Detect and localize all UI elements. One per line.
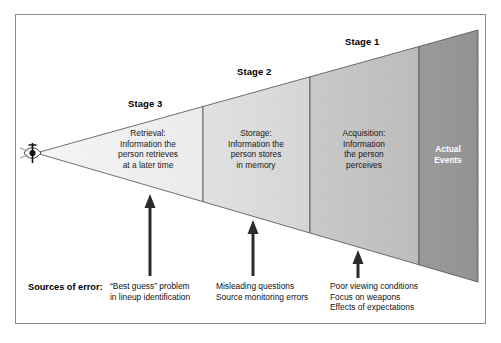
sources-of-error-stage-1: Poor viewing conditions Focus on weapons…: [330, 281, 448, 313]
stage-label-stage-3: Stage 3: [128, 98, 163, 109]
arrow-stage-2: [248, 220, 259, 276]
eye-icon: [20, 143, 41, 163]
stage-label-stage-1: Stage 1: [345, 36, 380, 47]
stage-label-stage-2: Stage 2: [237, 66, 272, 77]
sources-of-error-stage-2: Misleading questions Source monitoring e…: [216, 281, 328, 302]
panel-text-stage-3: Retrieval: Information the person retrie…: [97, 128, 199, 170]
panel-text-actual-events: Actual Events: [421, 144, 475, 166]
figure-root: Stage 3 Stage 2 Stage 1 Retrieval: Infor…: [0, 0, 501, 343]
panel-text-stage-2: Storage: Information the person stores i…: [204, 128, 308, 170]
sources-of-error-stage-3: “Best guess” problem in lineup identific…: [110, 281, 212, 302]
arrow-stage-1: [353, 250, 364, 278]
sources-of-error-label: Sources of error:: [28, 282, 103, 292]
arrow-stage-3: [145, 194, 156, 276]
panel-text-stage-1: Acquisition: Information the person perc…: [312, 128, 416, 170]
